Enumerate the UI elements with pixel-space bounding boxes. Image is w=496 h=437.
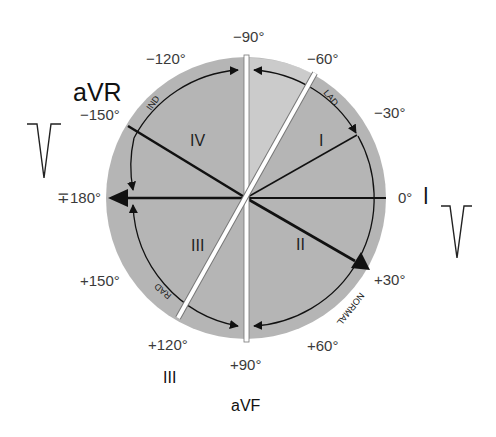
hexaxial-diagram: IND LAD RAD NORMAL −90° −60° −120° −30° … (0, 0, 496, 437)
quadrant-i: I (319, 132, 323, 150)
lead-label-avf: aVF (231, 397, 260, 415)
deg-label-plus30: +30° (374, 271, 405, 288)
deg-label-plus60: +60° (307, 337, 338, 354)
quadrant-ii: II (296, 236, 305, 254)
lead-label-i: I (424, 182, 428, 210)
lead-i-waveform-icon (441, 206, 472, 258)
deg-label-minus150: −150° (80, 106, 120, 123)
lead-label-avr: aVR (73, 78, 122, 107)
deg-label-minus90: −90° (233, 28, 264, 45)
deg-label-minus30: −30° (374, 104, 405, 121)
deg-label-minus120: −120° (146, 50, 186, 67)
deg-label-plus90: +90° (230, 356, 261, 373)
quadrant-iii: III (191, 237, 204, 255)
avr-waveform-icon (27, 124, 61, 178)
deg-label-minus60: −60° (307, 50, 338, 67)
lead-label-iii: III (163, 369, 176, 387)
deg-label-plus120: +120° (148, 336, 188, 353)
quadrant-iv: IV (190, 132, 205, 150)
deg-label-plus150: +150° (80, 272, 120, 289)
deg-label-180: ∓180° (57, 189, 101, 207)
deg-label-0: 0° (398, 189, 412, 206)
